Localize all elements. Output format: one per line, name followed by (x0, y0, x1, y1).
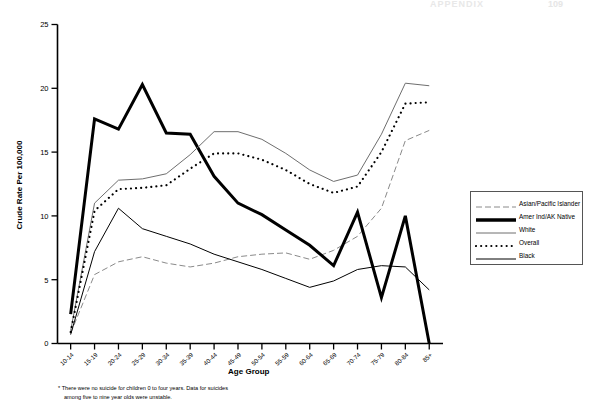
chart-footnote: * There were no suicide for children 0 t… (58, 384, 358, 401)
legend-item-amer-ind-ak-native[interactable]: Amer Ind/AK Native (471, 211, 582, 224)
legend-item-label: Asian/Pacific Islander (517, 201, 580, 207)
x-axis-tick-label: 20-24 (106, 351, 123, 367)
legend-item-label: Overall (517, 240, 539, 246)
x-axis-tick-label: 75-79 (369, 351, 386, 367)
y-axis-title: Crude Rate Per 100,000 (15, 140, 24, 229)
footnote-line-2: among five to nine year olds were unstab… (58, 393, 358, 402)
x-axis-title: Age Group (228, 367, 269, 376)
y-axis-tick-label: 15 (40, 148, 48, 157)
x-axis-tick-label: 60-64 (297, 351, 314, 367)
legend-swatch-icon (475, 212, 517, 224)
legend-swatch-icon (475, 225, 517, 237)
y-axis-tick-label: 0 (44, 339, 48, 348)
x-axis-tick-label: 30-34 (154, 351, 171, 367)
series-line-overall (71, 102, 430, 332)
legend-swatch-icon (475, 251, 517, 263)
y-axis-tick-label: 5 (44, 276, 48, 285)
legend-swatch-icon (475, 199, 517, 211)
y-axis-tick-label: 20 (40, 84, 48, 93)
footnote-line-1: * There were no suicide for children 0 t… (58, 384, 358, 393)
x-axis-tick-label: 70-74 (345, 351, 362, 367)
legend-item-label: White (517, 227, 535, 233)
chart-page: APPENDIX 109 0510152025Crude Rate Per 10… (0, 0, 593, 413)
legend-item-black[interactable]: Black (471, 250, 582, 263)
legend-item-label: Amer Ind/AK Native (517, 214, 575, 220)
chart-legend: Asian/Pacific IslanderAmer Ind/AK Native… (470, 191, 583, 265)
x-axis-tick-label: 80-84 (393, 351, 410, 367)
legend-item-label: Black (517, 253, 535, 259)
x-axis-tick-label: 35-39 (178, 351, 195, 367)
x-axis-tick-label: 65-69 (321, 351, 338, 367)
y-axis-tick-label: 25 (40, 20, 48, 29)
x-axis-tick-label: 40-44 (202, 351, 219, 367)
legend-item-overall[interactable]: Overall (471, 237, 582, 250)
x-axis-tick-label: 15-19 (82, 351, 99, 367)
series-line-asian-pacific-islander (71, 130, 430, 333)
y-axis-tick-label: 10 (40, 212, 48, 221)
x-axis-tick-label: 50-54 (250, 351, 267, 367)
x-axis-tick-label: 55-59 (274, 351, 291, 367)
legend-item-asian-pacific-islander[interactable]: Asian/Pacific Islander (471, 198, 582, 211)
legend-swatch-icon (475, 238, 517, 250)
x-axis-tick-label: 85+ (421, 351, 434, 363)
x-axis-tick-label: 10-14 (58, 351, 75, 367)
x-axis-tick-label: 25-29 (130, 351, 147, 367)
x-axis-tick-label: 45-49 (226, 351, 243, 367)
legend-item-white[interactable]: White (471, 224, 582, 237)
